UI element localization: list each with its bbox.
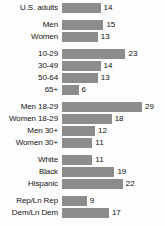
bar-row: White11 (0, 155, 165, 165)
bar-area: 9 (62, 196, 165, 206)
bar (62, 167, 114, 177)
bar-row: Rep/Ln Rep9 (0, 196, 165, 206)
bar-area: 17 (62, 208, 165, 218)
bar-value-label: 14 (104, 61, 113, 71)
bar-row: 50-6413 (0, 73, 165, 83)
bar-area: 13 (62, 73, 165, 83)
bar-value-label: 13 (101, 32, 110, 42)
bar-row-label: Dem/Ln Dem (0, 208, 58, 218)
bar-row-label: 65+ (0, 85, 58, 95)
bar-value-label: 14 (104, 3, 113, 13)
bar-area: 23 (62, 49, 165, 59)
bar-area: 11 (62, 155, 165, 165)
bar-value-label: 18 (115, 114, 124, 124)
bar-value-label: 22 (126, 179, 135, 189)
bar (62, 85, 79, 95)
horizontal-bar-chart: U.S. adults14Men15Women1310-292330-49145… (0, 0, 165, 226)
bar-area: 15 (62, 20, 165, 30)
bar (62, 196, 87, 206)
bar (62, 102, 142, 112)
bar-value-label: 17 (112, 208, 121, 218)
bar-area: 29 (62, 102, 165, 112)
bar (62, 138, 92, 148)
bar-area: 14 (62, 61, 165, 71)
bar-row: Women 30+11 (0, 138, 165, 148)
bar-row: Men15 (0, 20, 165, 30)
bar-row-label: Men (0, 20, 58, 30)
bar-value-label: 6 (82, 85, 86, 95)
bar-group-gender-by-age: Men 18-2929Women 18-2918Men 30+12Women 3… (0, 102, 165, 148)
bar-row-label: Women 30+ (0, 138, 58, 148)
bar-row: Men 30+12 (0, 126, 165, 136)
bar (62, 114, 112, 124)
bar-row: U.S. adults14 (0, 3, 165, 13)
bar-row-label: Rep/Ln Rep (0, 196, 58, 206)
bar-row-label: 50-64 (0, 73, 58, 83)
bar-value-label: 13 (101, 73, 110, 83)
bar-row-label: Hispanic (0, 179, 58, 189)
bar-row: Men 18-2929 (0, 102, 165, 112)
bar-area: 13 (62, 32, 165, 42)
bar-group-party: Rep/Ln Rep9Dem/Ln Dem17 (0, 196, 165, 218)
bar-row-label: Black (0, 167, 58, 177)
bar-area: 6 (62, 85, 165, 95)
bar-row: Women13 (0, 32, 165, 42)
bar-area: 22 (62, 179, 165, 189)
bar-group-total: U.S. adults14 (0, 3, 165, 13)
bar-row-label: White (0, 155, 58, 165)
bar-row: Black19 (0, 167, 165, 177)
bar-row-label: Men 30+ (0, 126, 58, 136)
bar (62, 73, 98, 83)
bar-row-label: Women (0, 32, 58, 42)
bar-value-label: 11 (95, 138, 103, 148)
bar-row-label: U.S. adults (0, 3, 58, 13)
bar-area: 18 (62, 114, 165, 124)
bar-row: Women 18-2918 (0, 114, 165, 124)
bar (62, 179, 123, 189)
bar-row-label: Men 18-29 (0, 102, 58, 112)
bar-row: Hispanic22 (0, 179, 165, 189)
bar-row: 30-4914 (0, 61, 165, 71)
bar-row: Dem/Ln Dem17 (0, 208, 165, 218)
bar-value-label: 11 (95, 155, 103, 165)
bar (62, 49, 125, 59)
bar-value-label: 23 (128, 49, 137, 59)
bar-area: 12 (62, 126, 165, 136)
bar-value-label: 29 (145, 102, 154, 112)
bar (62, 20, 103, 30)
bar-area: 11 (62, 138, 165, 148)
bar-value-label: 12 (98, 126, 107, 136)
bar (62, 126, 95, 136)
bar-row-label: Women 18-29 (0, 114, 58, 124)
bar-value-label: 15 (106, 20, 115, 30)
bar-value-label: 19 (117, 167, 126, 177)
bar (62, 61, 101, 71)
bar-row-label: 30-49 (0, 61, 58, 71)
bar (62, 32, 98, 42)
bar-row: 10-2923 (0, 49, 165, 59)
bar (62, 155, 92, 165)
bar-area: 19 (62, 167, 165, 177)
bar-group-race-ethnicity: White11Black19Hispanic22 (0, 155, 165, 189)
bar (62, 208, 109, 218)
chart-groups: U.S. adults14Men15Women1310-292330-49145… (0, 3, 165, 218)
bar-row: 65+6 (0, 85, 165, 95)
bar (62, 3, 101, 13)
bar-row-label: 10-29 (0, 49, 58, 59)
bar-value-label: 9 (90, 196, 94, 206)
bar-group-gender: Men15Women13 (0, 20, 165, 42)
bar-group-age: 10-292330-491450-641365+6 (0, 49, 165, 95)
bar-area: 14 (62, 3, 165, 13)
